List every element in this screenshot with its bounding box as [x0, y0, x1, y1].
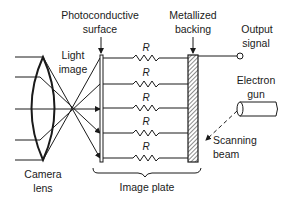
output-terminal [237, 53, 243, 59]
output-label-line1: Output [241, 23, 273, 35]
camera-tube-diagram: Photoconductive surface Metallized backi… [0, 0, 284, 203]
resistor-label: R [142, 67, 149, 78]
metallized-label-line1: Metallized [169, 9, 216, 21]
electron-gun-label-line2: gun [247, 88, 265, 100]
resistor-row: R [103, 92, 188, 111]
scanning-beam-label-line1: Scanning [213, 134, 257, 146]
photoconductive-surface [100, 55, 103, 162]
metallized-backing [188, 55, 198, 162]
photoconductive-label-line2: surface [83, 23, 118, 35]
resistor-label: R [142, 42, 149, 53]
electron-gun-label-line1: Electron [237, 74, 276, 86]
light-image-label-line2: image [59, 63, 88, 75]
camera-lens-label-line2: lens [33, 182, 52, 194]
output-label-line2: signal [242, 37, 269, 49]
resistor-row: R [103, 116, 188, 136]
resistor-label: R [142, 141, 149, 152]
camera-lens-label-line1: Camera [24, 168, 62, 180]
scanning-beam-label-line2: beam [213, 148, 240, 160]
light-image-label-line1: Light [62, 49, 85, 61]
electron-gun [237, 102, 278, 116]
resistor-row: R [103, 67, 188, 87]
photoconductive-label-line1: Photoconductive [61, 9, 139, 21]
resistor-label: R [142, 116, 149, 127]
metallized-label-line2: backing [175, 23, 211, 35]
resistor-row: R [103, 42, 188, 61]
resistor-row: R [103, 141, 188, 161]
image-plate-label: Image plate [120, 181, 175, 193]
resistor-label: R [142, 92, 149, 103]
image-plate-brace [93, 168, 201, 177]
